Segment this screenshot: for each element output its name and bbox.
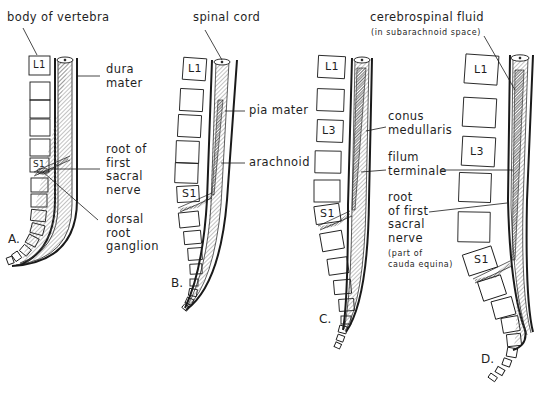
label-pia-mater: pia mater — [249, 104, 308, 118]
panel-a — [6, 28, 100, 266]
leader-conus-medullaris — [366, 127, 386, 131]
label-conus-medullaris: conus medullaris — [388, 110, 452, 137]
label-cauda-equina-note: (part of cauda equina) — [388, 249, 453, 270]
vertebra-tag-b-s1: S1 — [182, 187, 197, 201]
panel-letter-d: D. — [481, 352, 494, 366]
vertebra-tag-d-l1: L1 — [474, 63, 488, 77]
panel-letter-c: C. — [319, 312, 331, 326]
label-subarachnoid-space-note: (in subarachnoid space) — [371, 28, 481, 39]
vertebra-tag-d-s1: S1 — [474, 253, 489, 267]
spinal-cord-development-diagram — [0, 0, 552, 393]
vertebra-tag-d-l3: L3 — [470, 145, 484, 159]
panel-letter-a: A. — [8, 232, 20, 246]
vertebra-tag-c-l3: L3 — [322, 124, 336, 138]
vertebra-tag-a-l1: L1 — [33, 58, 46, 72]
label-spinal-cord: spinal cord — [193, 11, 260, 25]
vertebra-tag-b-l1: L1 — [188, 62, 202, 76]
vertebra-tag-c-s1: S1 — [320, 207, 335, 221]
leader-body-of-vertebra — [23, 28, 37, 55]
label-cerebrospinal-fluid: cerebrospinal fluid — [370, 11, 484, 25]
panel-d-vertebrae — [458, 54, 522, 382]
label-filum-terminale: filum terminale — [388, 151, 447, 178]
vertebra-tag-a-s1: S1 — [33, 158, 45, 172]
label-arachnoid: arachnoid — [249, 156, 310, 170]
vertebra-tag-c-l1: L1 — [325, 60, 339, 74]
leader-root-first-sacral-d — [429, 203, 507, 212]
label-root-first-sacral-nerve-c: root of first sacral nerve — [388, 191, 428, 245]
panel-d — [429, 36, 533, 382]
panel-b — [175, 30, 245, 311]
label-dorsal-root-ganglion: dorsal root ganglion — [106, 213, 159, 254]
label-dura-mater: dura mater — [106, 63, 143, 90]
label-root-first-sacral-nerve-a: root of first sacral nerve — [106, 143, 147, 197]
panel-letter-b: B. — [171, 276, 183, 290]
leader-spinal-cord — [205, 30, 222, 60]
panel-c — [314, 55, 386, 349]
label-body-of-vertebra: body of vertebra — [7, 11, 110, 25]
